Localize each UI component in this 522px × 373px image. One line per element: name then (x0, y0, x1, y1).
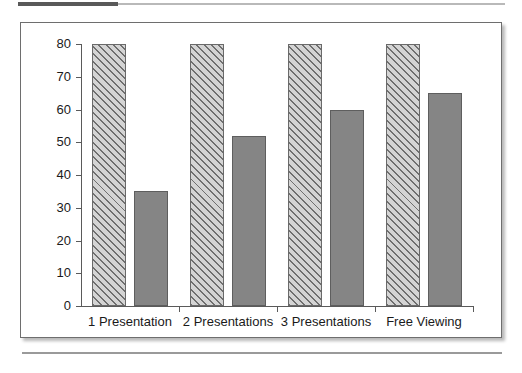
header-rule-light-segment (118, 3, 505, 5)
x-axis-tick-mark (473, 306, 474, 312)
header-rule (0, 2, 522, 6)
y-axis-tick-label: 40 (27, 168, 71, 181)
x-axis-label: 2 Presentations (179, 315, 277, 328)
y-axis-tick-label: 80 (27, 37, 71, 50)
header-rule-dark-segment (18, 2, 118, 6)
x-axis-tick-mark (375, 306, 376, 312)
footer-rule (22, 352, 502, 354)
bar-solid-series-0 (134, 191, 168, 306)
y-axis-tick-label: 0 (27, 299, 71, 312)
bar-hatched-series-1 (190, 44, 224, 306)
x-axis-label: 1 Presentation (81, 315, 179, 328)
bar-chart: 80706050403020100 1 Presentation2 Presen… (21, 23, 503, 339)
y-axis-tick-label: 20 (27, 234, 71, 247)
bar-hatched-series-2 (288, 44, 322, 306)
figure-frame: 80706050403020100 1 Presentation2 Presen… (20, 22, 502, 338)
bar-hatched-series-3 (386, 44, 420, 306)
y-axis-tick-label: 30 (27, 201, 71, 214)
x-axis-label: Free Viewing (375, 315, 473, 328)
y-axis-tick-mark (76, 306, 81, 307)
bar-solid-series-3 (428, 93, 462, 306)
bar-solid-series-1 (232, 136, 266, 306)
x-axis-tick-mark (277, 306, 278, 312)
y-axis-tick-label: 70 (27, 70, 71, 83)
x-axis-tick-mark (179, 306, 180, 312)
y-axis-tick-label: 10 (27, 266, 71, 279)
bar-solid-series-2 (330, 110, 364, 307)
y-axis-tick-label: 50 (27, 135, 71, 148)
bars-layer (81, 44, 473, 306)
y-axis-tick-label: 60 (27, 103, 71, 116)
x-axis-label: 3 Presentations (277, 315, 375, 328)
bar-hatched-series-0 (92, 44, 126, 306)
